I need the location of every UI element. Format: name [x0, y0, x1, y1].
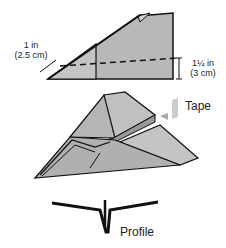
- left-measure-line2: (2.5 cm): [14, 50, 48, 60]
- left-measure-line1: 1 in: [14, 40, 48, 50]
- right-measure-label: 1¼ in (3 cm): [184, 58, 222, 78]
- left-measure-label: 1 in (2.5 cm): [14, 40, 48, 60]
- profile-label: Profile: [120, 225, 154, 239]
- step2-plane-diagram: [35, 92, 198, 178]
- right-measure-line2: (3 cm): [184, 68, 222, 78]
- step1-fold-diagram: [40, 13, 182, 79]
- right-measure-line1: 1¼ in: [184, 58, 222, 68]
- tape-label: Tape: [185, 99, 211, 113]
- paper-airplane-diagram: [0, 0, 226, 248]
